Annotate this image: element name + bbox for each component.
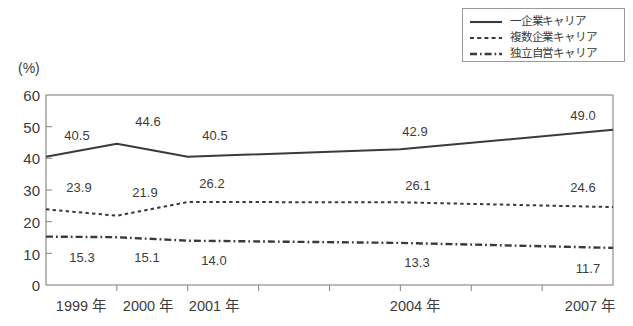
plot-area [0, 0, 633, 326]
series-line-dashdot [46, 237, 613, 248]
series-line-dotted [46, 202, 613, 216]
y-axis-ticks [46, 127, 52, 254]
plot-frame [46, 95, 613, 285]
x-axis-ticks [117, 285, 542, 291]
chart-figure: 一企業キャリア 複数企業キャリア 独立自営キャリア (%) 60 50 4 [0, 0, 633, 326]
series-line-solid [46, 130, 613, 157]
